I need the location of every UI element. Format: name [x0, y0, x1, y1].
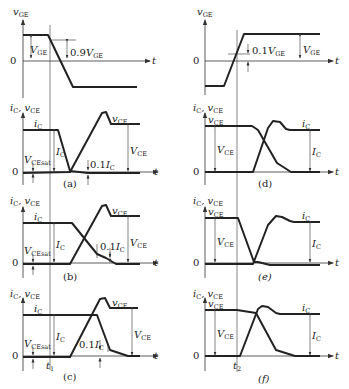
svg-text:t: t — [335, 166, 340, 177]
svg-text:0.1IC: 0.1IC — [100, 241, 125, 254]
svg-text:VGE: VGE — [303, 44, 320, 57]
panel-d-turnon: iC, vCE 0 t vCE iC VCE IC (d) — [193, 102, 340, 189]
vge-waveform — [205, 34, 320, 86]
svg-text:vGE: vGE — [197, 6, 213, 19]
caption-e: (e) — [258, 271, 272, 282]
panel-e-turnon: iC, vCE 0 t vCE iC VCE IC (e) — [193, 195, 340, 282]
svg-text:iC, vCE: iC, vCE — [10, 288, 40, 301]
caption-a: (a) — [63, 178, 77, 189]
panel-f-turnon: iC, vCE 0 t vCE iC VCE IC t2 (f) — [193, 288, 340, 384]
svg-text:0: 0 — [12, 350, 18, 361]
svg-text:0: 0 — [193, 350, 199, 361]
igbt-switching-waveform-figure: vGE 0 t VGE 0.9VGE vGE 0 t 0.1VGE VGE iC… — [0, 0, 349, 389]
svg-text:vGE: vGE — [13, 6, 29, 19]
svg-text:IC: IC — [311, 146, 321, 159]
svg-text:0: 0 — [10, 55, 16, 66]
svg-text:t: t — [154, 166, 159, 177]
svg-text:VCE: VCE — [130, 145, 147, 158]
svg-text:0.1IC: 0.1IC — [90, 159, 115, 172]
svg-text:VCE: VCE — [217, 144, 234, 157]
panel-vge-turnon: vGE 0 t 0.1VGE VGE — [193, 6, 340, 95]
svg-text:0: 0 — [12, 257, 18, 268]
svg-text:VGE: VGE — [30, 44, 47, 57]
svg-text:t: t — [335, 350, 340, 361]
caption-b: (b) — [63, 271, 77, 282]
svg-text:IC: IC — [55, 239, 65, 252]
svg-text:t: t — [335, 257, 340, 268]
svg-text:VCEsat: VCEsat — [24, 338, 51, 351]
svg-text:t: t — [152, 55, 157, 66]
caption-c: (c) — [63, 371, 77, 382]
svg-text:t: t — [335, 55, 340, 66]
svg-text:VCEsat: VCEsat — [24, 154, 51, 167]
svg-text:IC: IC — [311, 330, 321, 343]
panel-vge-turnoff: vGE 0 t VGE 0.9VGE — [10, 6, 157, 98]
svg-text:IC: IC — [55, 331, 65, 344]
svg-text:0: 0 — [193, 55, 199, 66]
svg-text:0: 0 — [12, 166, 18, 177]
svg-text:VCEsat: VCEsat — [24, 245, 51, 258]
svg-text:0: 0 — [193, 166, 199, 177]
svg-text:0.9VGE: 0.9VGE — [70, 47, 103, 60]
panel-c-turnoff: iC, vCE 0 t iC vCE VCEsat IC 0.1IC VCE t… — [10, 288, 159, 382]
svg-text:VCE: VCE — [134, 329, 151, 342]
svg-text:t: t — [154, 350, 159, 361]
svg-text:VCE: VCE — [130, 237, 147, 250]
caption-f: (f) — [258, 373, 270, 384]
svg-text:VCE: VCE — [217, 236, 234, 249]
panel-a-turnoff: iC, vCE 0 t iC vCE VCEsat IC 0.1IC VCE (… — [10, 102, 159, 189]
svg-text:t: t — [154, 257, 159, 268]
panel-b-turnoff: iC, vCE 0 t iC vCE VCEsat IC 0.1IC VCE (… — [10, 195, 159, 282]
svg-text:IC: IC — [311, 238, 321, 251]
svg-text:0.1VGE: 0.1VGE — [252, 45, 285, 58]
svg-text:iC, vCE: iC, vCE — [10, 102, 40, 115]
caption-d: (d) — [258, 178, 272, 189]
svg-text:iC, vCE: iC, vCE — [10, 195, 40, 208]
svg-text:0: 0 — [193, 257, 199, 268]
svg-text:VCE: VCE — [217, 328, 234, 341]
